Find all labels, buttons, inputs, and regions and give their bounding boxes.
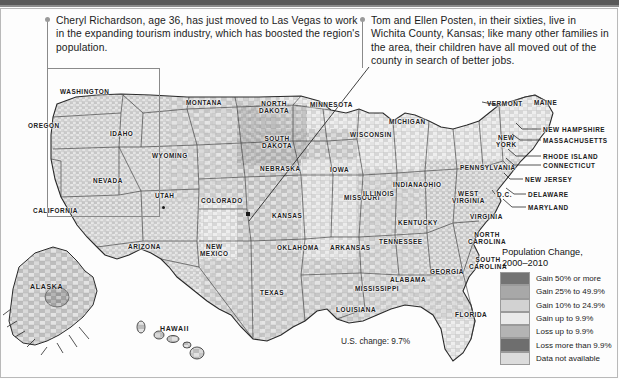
state-label-ohio: OHIO — [423, 181, 442, 188]
legend-label: Loss up to 9.9% — [536, 327, 593, 336]
state-label-north-carolina: NORTHCAROLINA — [468, 231, 506, 246]
state-label-line: KENTUCKY — [398, 219, 438, 226]
map-legend: Population Change, 2000–2010 Gain 50% or… — [500, 247, 616, 365]
callout-wichita-county: Tom and Ellen Posten, in their sixties, … — [371, 14, 611, 68]
state-label-virginia: VIRGINIA — [470, 213, 503, 220]
state-label-line: MINNESOTA — [310, 101, 353, 108]
state-label-line: WASHINGTON — [60, 88, 109, 95]
legend-item: Gain 25% to 49.9% — [500, 285, 616, 298]
state-label-washington: WASHINGTON — [60, 88, 109, 95]
state-label-oregon: OREGON — [28, 122, 60, 129]
state-label-line: TEXAS — [260, 289, 284, 296]
legend-item: Data not available — [500, 352, 616, 365]
legend-swatch — [500, 325, 530, 338]
alaska-inset — [3, 245, 101, 355]
state-label-florida: FLORIDA — [455, 311, 487, 318]
state-label-line: OKLAHOMA — [277, 244, 319, 251]
state-label-line: MONTANA — [186, 99, 222, 106]
state-label-line: MISSISSIPPI — [355, 285, 399, 292]
state-label-montana: MONTANA — [186, 99, 222, 106]
state-label-line: NEVADA — [93, 177, 123, 184]
state-label-texas: TEXAS — [260, 289, 284, 296]
legend-label: Gain up to 9.9% — [536, 314, 593, 323]
state-label-vermont: VERMONT — [487, 100, 523, 107]
state-label-nebraska: NEBRASKA — [260, 165, 301, 172]
legend-label: Gain 25% to 49.9% — [536, 287, 605, 296]
callout-bullet-dot — [45, 17, 50, 22]
state-label-arkansas: ARKANSAS — [330, 244, 371, 251]
state-label-utah: UTAH — [155, 192, 174, 199]
legend-label: Data not available — [536, 354, 600, 363]
state-label-line: WISCONSIN — [350, 131, 392, 138]
state-label-nevada: NEVADA — [93, 177, 123, 184]
state-label-line: VERMONT — [487, 100, 523, 107]
las-vegas-leader-horizontal — [47, 216, 160, 217]
state-label-line: DELAWARE — [528, 191, 569, 198]
state-label-pennsylvania: PENNSYLVANIA — [460, 164, 516, 171]
state-label-line: COLORADO — [201, 197, 243, 204]
state-label-line: VIRGINIA — [452, 197, 485, 204]
state-label-new-hampshire: NEW HAMPSHIRE — [543, 126, 605, 133]
state-label-line: MAINE — [534, 99, 557, 106]
state-label-michigan: MICHIGAN — [389, 118, 426, 125]
state-label-minnesota: MINNESOTA — [310, 101, 353, 108]
legend-title: Population Change, 2000–2010 — [502, 247, 616, 269]
callout-wichita-text: Tom and Ellen Posten, in their sixties, … — [371, 15, 609, 66]
state-label-line: ILLINOIS — [363, 190, 394, 197]
us-change-note: U.S. change: 9.7% — [341, 336, 410, 346]
legend-label: Gain 50% or more — [536, 274, 601, 283]
state-label-line: MEXICO — [200, 250, 229, 257]
state-label-line: PENNSYLVANIA — [460, 164, 516, 171]
state-label-line: INDIANA — [393, 181, 423, 188]
state-label-colorado: COLORADO — [201, 197, 243, 204]
inset-label-hawaii: HAWAII — [160, 325, 189, 332]
legend-swatch — [500, 338, 530, 351]
state-label-line: VIRGINIA — [470, 213, 503, 220]
legend-label: Loss more than 9.9% — [536, 341, 612, 350]
state-label-line: IDAHO — [110, 130, 133, 137]
state-label-tennessee: TENNESSEE — [379, 238, 423, 245]
state-label-line: CONNECTICUT — [543, 162, 596, 169]
legend-swatch — [500, 285, 530, 298]
state-label-indiana: INDIANA — [393, 181, 423, 188]
state-label-kansas: KANSAS — [272, 212, 302, 219]
state-label-south-dakota: SOUTHDAKOTA — [262, 135, 292, 150]
legend-swatch — [500, 352, 530, 365]
wichita-marker — [246, 212, 250, 216]
legend-title-line1: Population Change, — [502, 247, 616, 258]
state-label-maine: MAINE — [534, 99, 557, 106]
state-label-line: ARIZONA — [128, 243, 161, 250]
legend-item: Loss more than 9.9% — [500, 338, 616, 351]
state-label-line: IOWA — [330, 166, 349, 173]
callout-las-vegas: Cheryl Richardson, age 36, has just move… — [56, 14, 366, 54]
legend-item: Gain 50% or more — [500, 272, 616, 285]
legend-item: Loss up to 9.9% — [500, 325, 616, 338]
las-vegas-leader-vertical — [47, 21, 48, 217]
state-label-georgia: GEORGIA — [430, 268, 464, 275]
las-vegas-box-top — [47, 68, 160, 69]
legend-rows: Gain 50% or moreGain 25% to 49.9%Gain 10… — [500, 272, 616, 365]
state-label-kentucky: KENTUCKY — [398, 219, 438, 226]
legend-swatch — [500, 312, 530, 325]
state-label-new-york: NEWYORK — [496, 134, 517, 149]
state-label-wyoming: WYOMING — [152, 152, 188, 159]
state-label-wisconsin: WISCONSIN — [350, 131, 392, 138]
inset-label-alaska: ALASKA — [30, 283, 63, 290]
state-label-line: MARYLAND — [528, 204, 569, 211]
state-label-oklahoma: OKLAHOMA — [277, 244, 319, 251]
state-label-line: UTAH — [155, 192, 174, 199]
state-label-mississippi: MISSISSIPPI — [355, 285, 399, 292]
figure-root: Cheryl Richardson, age 36, has just move… — [0, 0, 619, 379]
top-rule-light — [0, 5, 619, 7]
callout-las-vegas-text: Cheryl Richardson, age 36, has just move… — [56, 15, 360, 53]
state-label-illinois: ILLINOIS — [363, 190, 394, 197]
state-label-west-virginia: WESTVIRGINIA — [452, 190, 485, 205]
state-label-line: RHODE ISLAND — [543, 153, 598, 160]
legend-title-line2: 2000–2010 — [502, 258, 616, 269]
state-label-rhode-island: RHODE ISLAND — [543, 153, 598, 160]
state-label-louisiana: LOUISIANA — [336, 306, 376, 313]
state-label-maryland: MARYLAND — [528, 204, 569, 211]
state-label-north-dakota: NORTHDAKOTA — [259, 100, 289, 115]
state-label-alabama: ALABAMA — [390, 276, 426, 283]
state-label-line: DAKOTA — [262, 142, 292, 149]
